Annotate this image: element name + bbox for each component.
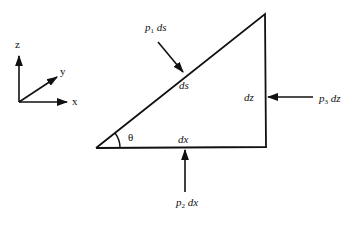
y-axis-arrow bbox=[19, 77, 57, 102]
pressure-triangle-diagram bbox=[0, 0, 350, 225]
p1-ds-label: p1 ds bbox=[145, 22, 167, 35]
dz-label: dz bbox=[244, 92, 254, 103]
y-axis-label: y bbox=[60, 66, 66, 77]
coordinate-axes bbox=[19, 56, 67, 102]
force-arrows bbox=[158, 42, 313, 192]
angle-arc bbox=[115, 133, 120, 148]
theta-label: θ bbox=[128, 132, 133, 143]
p1-arrow bbox=[158, 42, 183, 72]
z-axis-label: z bbox=[15, 39, 20, 50]
x-axis-label: x bbox=[72, 96, 78, 107]
dx-label: dx bbox=[178, 134, 188, 145]
p3-dz-label: p3 dz bbox=[319, 93, 341, 106]
p2-dx-label: p2 dx bbox=[176, 197, 198, 210]
ds-label: ds bbox=[179, 80, 189, 91]
